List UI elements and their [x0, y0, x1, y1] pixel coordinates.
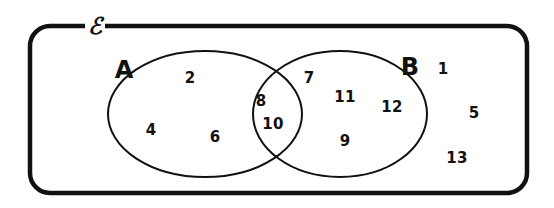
set-b-label: B	[401, 55, 419, 79]
venn-element-outside: 13	[446, 151, 467, 166]
venn-element-a-only: 2	[185, 71, 196, 86]
venn-element-b-only: 11	[334, 90, 355, 105]
venn-element-outside: 1	[438, 62, 449, 77]
venn-element-a-only: 6	[210, 130, 221, 145]
venn-element-outside: 5	[469, 106, 480, 121]
venn-element-intersection: 8	[256, 94, 267, 109]
universal-set-symbol: ℰ	[85, 14, 105, 37]
venn-element-a-only: 4	[146, 123, 157, 138]
venn-element-intersection: 10	[262, 117, 283, 132]
universal-set-rectangle	[30, 26, 527, 193]
venn-diagram: ℰ A B 2468107111291513	[0, 0, 554, 208]
set-a-label: A	[115, 58, 134, 82]
venn-element-b-only: 9	[340, 134, 351, 149]
venn-element-b-only: 12	[381, 100, 402, 115]
venn-element-b-only: 7	[304, 71, 315, 86]
